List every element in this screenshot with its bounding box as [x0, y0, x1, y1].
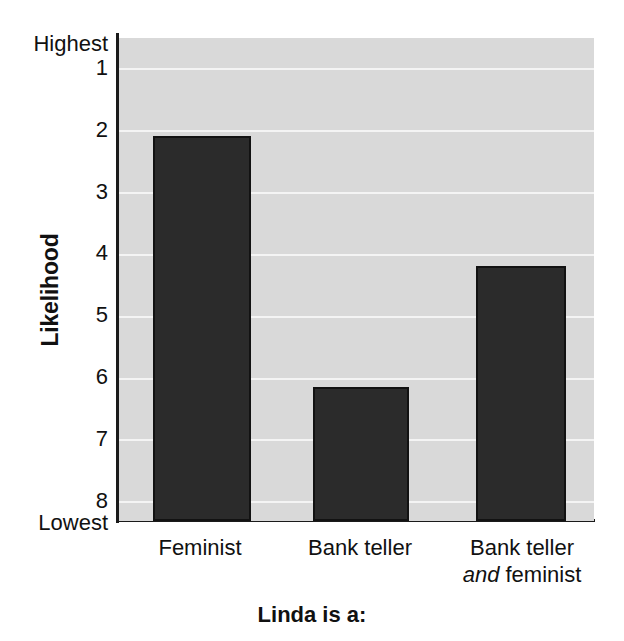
bar [153, 136, 251, 521]
y-tick-label-4: 4 [68, 242, 108, 264]
y-axis-tick-labels: Highest 1 2 3 4 5 6 7 8 Lowest [0, 0, 108, 641]
y-tick-label-1: 1 [68, 57, 108, 79]
x-tick-label-line: and feminist [426, 561, 618, 588]
y-tick-label-3: 3 [68, 181, 108, 203]
y-tick-label-6: 6 [68, 366, 108, 388]
x-tick-label-bank-teller-and-feminist: Bank teller and feminist [426, 534, 618, 588]
bar [313, 387, 409, 521]
x-tick-label-feminist-word: feminist [499, 562, 581, 587]
gridline [119, 68, 594, 70]
y-axis-highest-label: Highest [0, 33, 108, 55]
bar [476, 266, 566, 521]
x-axis-title: Linda is a: [0, 602, 624, 628]
y-tick-label-7: 7 [68, 428, 108, 450]
x-tick-label-and: and [463, 562, 500, 587]
gridline [119, 130, 594, 132]
y-axis-lowest-label: Lowest [0, 512, 108, 534]
x-tick-label-line: Bank teller [426, 534, 618, 561]
bar-chart: Likelihood Highest 1 2 3 4 5 6 7 8 Lowes… [0, 0, 624, 641]
y-tick-label-8: 8 [68, 490, 108, 512]
plot-area [119, 38, 594, 521]
y-tick-label-5: 5 [68, 304, 108, 326]
y-tick-label-2: 2 [68, 119, 108, 141]
